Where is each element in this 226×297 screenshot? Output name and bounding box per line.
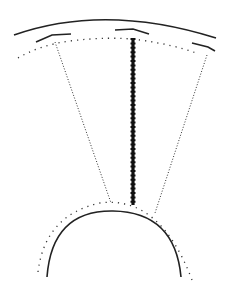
outer-arc xyxy=(14,20,216,38)
outer-segment-right xyxy=(192,43,215,51)
inner-dotted-arc xyxy=(38,202,192,280)
outer-segment-center xyxy=(115,29,149,34)
inner-arc xyxy=(47,211,181,277)
left-radial-line xyxy=(55,42,111,203)
right-radial-line xyxy=(155,55,207,213)
outer-dotted-arc xyxy=(18,38,196,58)
diagram-canvas xyxy=(0,0,226,297)
outer-segment-left xyxy=(36,34,71,42)
